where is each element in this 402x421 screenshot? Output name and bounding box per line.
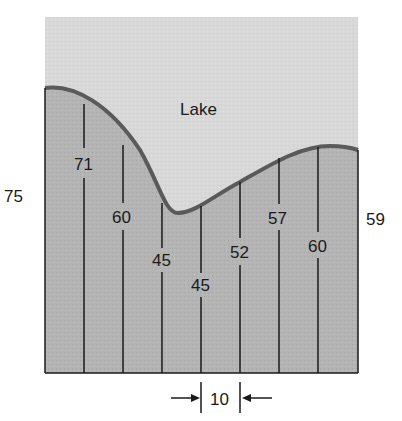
edge-measurement-right: 59 bbox=[366, 210, 385, 229]
lake-diagram: Lake 75 59 71 60 45 45 52 57 60 10 bbox=[0, 0, 402, 421]
spacing-label: 10 bbox=[210, 390, 229, 409]
edge-measurement-left: 75 bbox=[4, 187, 23, 206]
measurement-5: 52 bbox=[230, 243, 249, 262]
measurement-4: 45 bbox=[191, 276, 210, 295]
measurement-2: 60 bbox=[112, 208, 131, 227]
measurement-1: 71 bbox=[74, 155, 93, 174]
measurement-7: 60 bbox=[308, 237, 327, 256]
measurement-6: 57 bbox=[268, 209, 287, 228]
lake-label: Lake bbox=[180, 100, 217, 119]
measurement-3: 45 bbox=[152, 251, 171, 270]
